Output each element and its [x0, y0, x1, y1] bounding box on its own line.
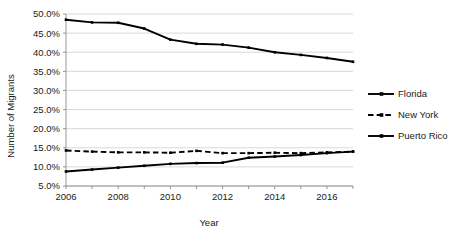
y-axis-tick-label: 50.0% [33, 8, 60, 19]
x-axis-tick-label: 2014 [264, 191, 285, 202]
data-point-puerto-rico [221, 161, 224, 164]
data-point-puerto-rico [247, 156, 250, 159]
data-point-puerto-rico [91, 168, 94, 171]
y-axis-tick-label: 15.0% [33, 142, 60, 153]
data-point-new-york [117, 151, 120, 154]
data-point-new-york [247, 152, 250, 155]
data-point-new-york [273, 151, 276, 154]
data-point-new-york [221, 152, 224, 155]
legend-marker-puerto-rico [380, 134, 384, 138]
series-line-puerto-rico [66, 152, 353, 172]
series-line-new-york [66, 150, 353, 153]
data-point-florida [352, 60, 355, 63]
data-point-florida [221, 43, 224, 46]
legend-label-new-york: New York [398, 109, 438, 120]
gridlines [66, 14, 353, 186]
data-point-puerto-rico [169, 163, 172, 166]
x-axis-tick-label: 2012 [212, 191, 233, 202]
data-point-florida [143, 27, 146, 30]
legend-marker-florida [380, 92, 384, 96]
data-point-new-york [169, 151, 172, 154]
y-axis-tick-label: 10.0% [33, 161, 60, 172]
data-point-new-york [195, 150, 198, 153]
series-group [65, 18, 355, 172]
x-axis-title: Year [199, 217, 218, 228]
x-axis-tick-labels: 200620082010201220142016 [55, 191, 337, 202]
chart-legend: FloridaNew YorkPuerto Rico [368, 88, 448, 141]
x-axis-tick-label: 2006 [55, 191, 76, 202]
line-chart: 5.0%10.0%15.0%20.0%25.0%30.0%35.0%40.0%4… [0, 0, 452, 232]
x-axis-tick-label: 2016 [316, 191, 337, 202]
y-axis-tick-label: 20.0% [33, 123, 60, 134]
data-point-puerto-rico [195, 162, 198, 165]
data-point-florida [195, 43, 198, 46]
data-point-puerto-rico [273, 155, 276, 158]
data-point-puerto-rico [117, 166, 120, 169]
chart-canvas: 5.0%10.0%15.0%20.0%25.0%30.0%35.0%40.0%4… [0, 0, 452, 232]
y-axis-title: Number of Migrants [5, 74, 16, 158]
data-point-new-york [65, 149, 68, 152]
series-line-florida [66, 20, 353, 62]
data-point-florida [169, 38, 172, 41]
data-point-new-york [143, 151, 146, 154]
data-point-florida [247, 46, 250, 49]
data-point-puerto-rico [65, 170, 68, 173]
y-axis-tick-label: 30.0% [33, 85, 60, 96]
data-point-puerto-rico [300, 154, 303, 157]
data-point-florida [117, 21, 120, 24]
y-axis-tick-label: 45.0% [33, 28, 60, 39]
x-axis-tick-label: 2010 [160, 191, 181, 202]
data-point-florida [326, 57, 329, 60]
legend-label-puerto-rico: Puerto Rico [398, 130, 448, 141]
data-point-florida [300, 54, 303, 57]
data-point-florida [65, 18, 68, 21]
data-point-puerto-rico [143, 164, 146, 167]
data-point-florida [91, 21, 94, 24]
data-point-puerto-rico [326, 152, 329, 155]
x-axis-tick-label: 2008 [108, 191, 129, 202]
data-point-puerto-rico [352, 150, 355, 153]
y-axis-tick-labels: 5.0%10.0%15.0%20.0%25.0%30.0%35.0%40.0%4… [33, 8, 60, 191]
data-point-florida [273, 51, 276, 54]
legend-label-florida: Florida [398, 88, 428, 99]
y-axis-tick-label: 40.0% [33, 47, 60, 58]
y-axis-tick-label: 35.0% [33, 66, 60, 77]
y-axis-tick-label: 25.0% [33, 104, 60, 115]
legend-marker-new-york [380, 113, 384, 117]
data-point-new-york [91, 150, 94, 153]
y-axis-tick-label: 5.0% [38, 180, 60, 191]
